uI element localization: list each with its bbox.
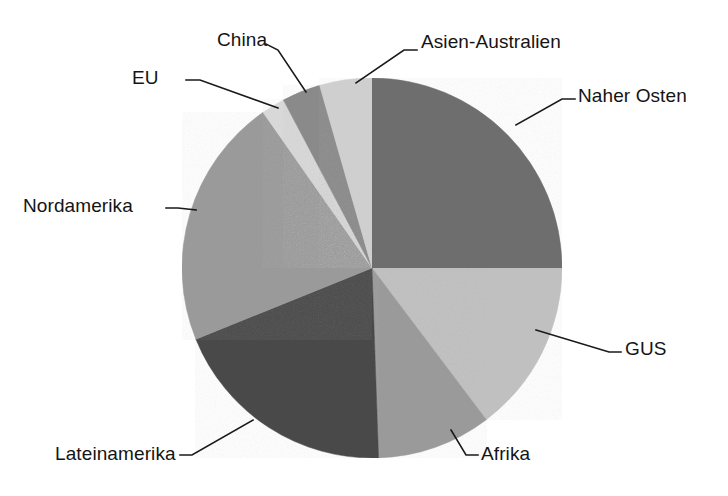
leader-line-lateinamerika [180, 420, 253, 455]
leader-line-gus [536, 330, 621, 352]
pie-chart-figure [0, 0, 728, 496]
pie-label-afrika: Afrika [481, 444, 530, 463]
pie-label-gus: GUS [625, 339, 666, 358]
pie-chart-page: Asien-Australien Naher Osten GUS Afrika … [0, 0, 728, 496]
pie-label-naher-osten: Naher Osten [578, 86, 687, 105]
leader-line-china [266, 44, 306, 92]
leader-line-naher-osten [516, 99, 575, 125]
pie-slice-naher-osten[interactable] [372, 78, 562, 268]
leader-line-eu [186, 80, 278, 108]
pie-label-nordamerika: Nordamerika [23, 196, 133, 215]
pie-label-china: China [217, 30, 267, 49]
pie-label-asien-australien: Asien-Australien [421, 32, 561, 51]
pie-slices-group [182, 78, 562, 458]
pie-label-eu: EU [132, 68, 159, 87]
pie-label-lateinamerika: Lateinamerika [55, 444, 176, 463]
